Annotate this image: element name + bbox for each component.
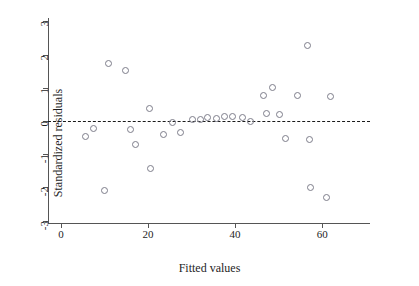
data-point <box>105 60 112 67</box>
residuals-scatter-figure: Standardized residuals 3210-1-2-3 020406… <box>0 0 419 286</box>
plot-area: 3210-1-2-3 0204060 <box>48 18 370 224</box>
data-point <box>263 110 270 117</box>
data-point <box>323 194 330 201</box>
data-point <box>197 116 204 123</box>
data-point <box>229 113 236 120</box>
y-tick-label-1: 2 <box>39 55 50 61</box>
data-point <box>260 92 267 99</box>
data-point <box>90 125 97 132</box>
y-tick-label-6: -3 <box>39 221 50 230</box>
x-tick-label-2: 40 <box>230 229 241 240</box>
x-tick-label-3: 60 <box>317 229 328 240</box>
data-point <box>146 105 153 112</box>
data-point <box>307 184 314 191</box>
data-point <box>282 135 289 142</box>
data-point <box>177 129 184 136</box>
data-point <box>82 133 89 140</box>
data-point <box>294 92 301 99</box>
data-point <box>247 118 254 125</box>
data-point <box>327 93 334 100</box>
data-point <box>189 116 196 123</box>
y-tick-label-2: 1 <box>39 88 50 94</box>
data-point <box>276 111 283 118</box>
y-tick-label-0: 3 <box>39 21 50 27</box>
data-point <box>221 113 228 120</box>
x-tick-label-0: 0 <box>58 229 64 240</box>
data-point <box>269 84 276 91</box>
data-point <box>147 165 154 172</box>
y-tick-label-4: -1 <box>39 154 50 163</box>
x-tick-label-1: 20 <box>143 229 154 240</box>
x-axis-title: Fitted values <box>0 261 419 276</box>
data-point <box>169 119 176 126</box>
data-point <box>127 126 134 133</box>
data-point <box>160 131 167 138</box>
data-point <box>304 42 311 49</box>
data-point <box>132 141 139 148</box>
zero-reference-line <box>48 121 370 122</box>
data-point <box>122 67 129 74</box>
data-point <box>239 114 246 121</box>
data-point <box>101 187 108 194</box>
data-point <box>306 136 313 143</box>
y-tick-label-5: -2 <box>39 187 50 196</box>
